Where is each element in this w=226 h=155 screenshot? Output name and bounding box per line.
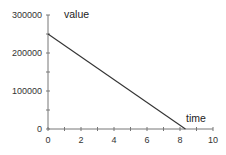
y-tick-label: 200000 [12, 48, 42, 58]
x-tick-label: 2 [78, 135, 83, 145]
data-series [48, 34, 185, 129]
y-tick-label: 0 [37, 124, 42, 134]
series-line [48, 34, 185, 129]
y-tick-label: 100000 [12, 86, 42, 96]
y-axis: 0100000200000300000 [12, 10, 50, 134]
x-tick-label: 4 [111, 135, 116, 145]
x-axis-title: time [186, 112, 206, 124]
line-chart: 0100000200000300000 0246810 value time [0, 0, 226, 155]
x-tick-label: 0 [45, 135, 50, 145]
x-tick-label: 6 [144, 135, 149, 145]
y-tick-label: 300000 [12, 10, 42, 20]
x-axis: 0246810 [45, 127, 218, 145]
y-axis-title: value [64, 8, 89, 20]
x-tick-label: 8 [177, 135, 182, 145]
x-tick-label: 10 [208, 135, 218, 145]
